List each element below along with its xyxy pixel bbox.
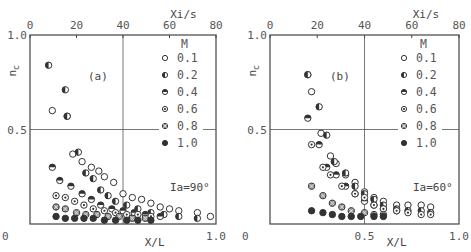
x2-axis-label: Xi/s [170, 8, 197, 21]
x-tick-label: 1.0 [206, 230, 226, 243]
origin-label: 0 [2, 230, 9, 243]
x-tick-label: 1.0 [449, 230, 469, 243]
top-tick-label: 80 [452, 19, 465, 32]
legend-item-label: 0.4 [177, 85, 198, 99]
legend-item-label: 0.6 [177, 102, 198, 116]
legend-item-label: 1.0 [177, 136, 198, 150]
y-tick-label: 0.5 [247, 124, 267, 137]
x2-axis-label: Xi/s [413, 8, 440, 21]
legend-item-label: 0.1 [416, 51, 437, 65]
y-axis-label: nc [246, 65, 261, 77]
x-axis-label: X/L [387, 236, 407, 249]
legend: M0.10.20.40.60.81.0 [162, 37, 197, 150]
top-tick-label: 0 [267, 19, 274, 32]
legend-title: M [420, 37, 427, 51]
incidence-annotation: Ia=90° [170, 181, 210, 194]
panel-label: (a) [88, 70, 108, 83]
series-M-0.6 [308, 141, 433, 217]
legend-item-label: 0.2 [177, 68, 198, 82]
top-tick-label: 40 [116, 19, 129, 32]
legend-title: M [181, 37, 188, 51]
top-tick-label: 80 [209, 19, 222, 32]
chart-panel-b: 020406080Xi/s0.51.000.51.0X/Lnc(b)Ia=60°… [242, 8, 469, 249]
y-tick-label: 1.0 [7, 29, 27, 42]
x-axis-label: X/L [145, 236, 165, 249]
top-tick-label: 20 [311, 19, 324, 32]
legend-item-label: 0.6 [416, 102, 437, 116]
y-tick-label: 1.0 [247, 29, 267, 42]
incidence-annotation: Ia=60° [413, 181, 453, 194]
legend-item-label: 0.1 [177, 51, 198, 65]
panel-label: (b) [330, 70, 350, 83]
x-tick-label: 0.5 [355, 230, 375, 243]
figure: 020406080Xi/s0.51.001.0X/Lnc(a)Ia=90°M0.… [0, 0, 471, 252]
chart-panel-a: 020406080Xi/s0.51.001.0X/Lnc(a)Ia=90°M0.… [2, 8, 226, 249]
y-tick-label: 0.5 [7, 124, 27, 137]
legend: M0.10.20.40.60.81.0 [401, 37, 436, 150]
legend-item-label: 0.4 [416, 85, 437, 99]
y-axis-label: nc [6, 65, 21, 77]
legend-item-label: 0.8 [416, 119, 437, 133]
legend-item-label: 0.2 [416, 68, 437, 82]
legend-item-label: 0.8 [177, 119, 198, 133]
legend-item-label: 1.0 [416, 136, 437, 150]
top-tick-label: 0 [27, 19, 34, 32]
origin-label: 0 [242, 230, 249, 243]
top-tick-label: 20 [70, 19, 83, 32]
series-M-1.0 [308, 208, 386, 220]
top-tick-label: 40 [358, 19, 371, 32]
